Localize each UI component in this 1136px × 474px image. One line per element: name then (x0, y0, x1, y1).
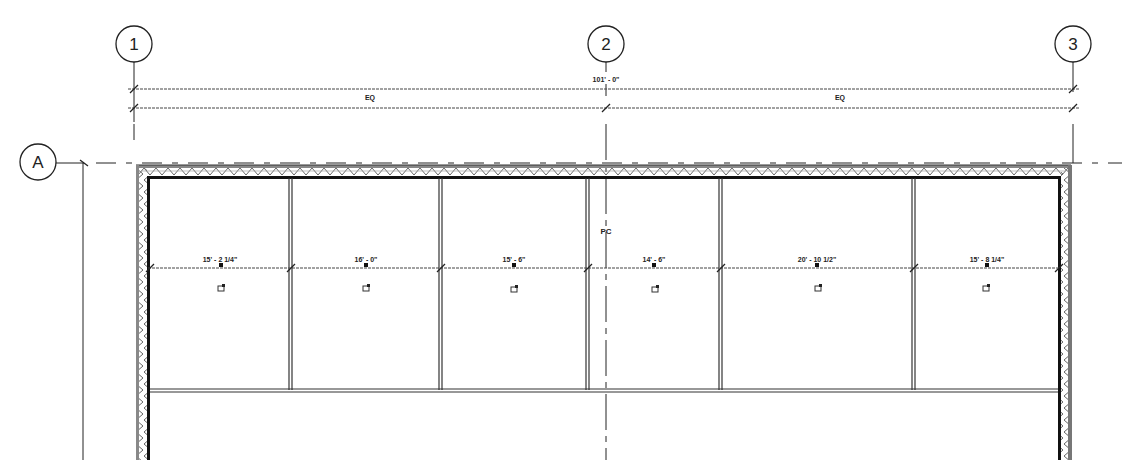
room-dimension-string[interactable] (146, 264, 1063, 272)
eq-right-label: EQ (835, 94, 846, 102)
lock-icon (363, 284, 370, 291)
eq-dimension[interactable]: EQ EQ (128, 94, 1080, 112)
interior-partitions[interactable] (150, 178, 1058, 392)
bay-dimension-5[interactable]: 20' - 10 1/2" (798, 256, 836, 263)
lock-icon (983, 284, 990, 291)
grid-bubble-a[interactable]: A (20, 144, 1122, 460)
bay-dimension-4[interactable]: 14' - 6" (643, 256, 666, 263)
eq-left-label: EQ (365, 94, 376, 102)
lock-icon (815, 284, 822, 291)
exterior-wall[interactable] (136, 165, 1072, 460)
bay-dimension-1[interactable]: 15' - 2 1/4" (203, 256, 238, 263)
overall-dimension[interactable]: 101' - 0" (128, 76, 1080, 93)
lock-icon (652, 285, 659, 292)
grid-label-1: 1 (129, 35, 138, 54)
overall-dimension-label: 101' - 0" (593, 76, 620, 83)
grid-bubble-3[interactable]: 3 (1055, 26, 1091, 163)
bay-dimension-6[interactable]: 15' - 8 1/4" (970, 256, 1005, 263)
grid-label-2: 2 (601, 35, 610, 54)
dimension-grips[interactable] (219, 263, 989, 267)
lock-icons[interactable] (218, 284, 990, 292)
lock-icon (511, 285, 518, 292)
grid-bubble-2[interactable]: 2 (588, 26, 624, 460)
centerline-tag: PC (600, 227, 611, 236)
floor-plan-drawing: 1 2 3 A 101' - 0" EQ (0, 0, 1136, 474)
lock-icon (218, 284, 225, 291)
grid-label-a: A (32, 153, 44, 172)
bay-dimension-3[interactable]: 15' - 6" (503, 256, 526, 263)
grid-label-3: 3 (1068, 35, 1077, 54)
bay-dimension-2[interactable]: 16' - 0" (355, 256, 378, 263)
